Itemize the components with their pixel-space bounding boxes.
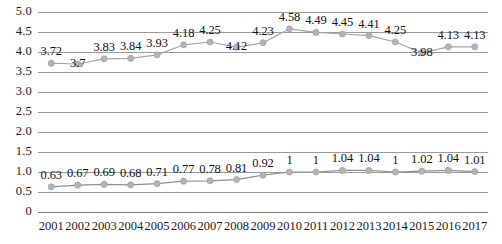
series-marker: [366, 33, 372, 39]
series-marker: [233, 177, 239, 183]
series-marker: [339, 167, 345, 173]
series-marker: [339, 31, 345, 37]
series-marker: [260, 172, 266, 178]
series-marker: [445, 44, 451, 50]
series-marker: [180, 178, 186, 184]
series-marker: [128, 182, 134, 188]
data-point-label: 4.12: [219, 39, 253, 54]
series-marker: [392, 169, 398, 175]
data-point-label: 1.01: [458, 153, 492, 168]
data-point-label: 4.25: [193, 23, 227, 38]
series-marker: [207, 39, 213, 45]
series-marker: [128, 55, 134, 61]
series-marker: [366, 167, 372, 173]
data-point-label: 3.7: [60, 56, 94, 71]
series-marker: [48, 60, 54, 66]
series-marker: [180, 42, 186, 48]
data-point-label: 4.25: [378, 23, 412, 38]
line-chart: 00.51.01.52.02.53.03.54.04.55.0 20012002…: [0, 0, 502, 244]
series-marker: [472, 44, 478, 50]
series-marker: [419, 168, 425, 174]
series-marker: [392, 39, 398, 45]
series-marker: [313, 169, 319, 175]
series-marker: [154, 181, 160, 187]
data-point-label: 4.13: [458, 28, 492, 43]
series-marker: [286, 26, 292, 32]
series-marker: [154, 52, 160, 58]
series-marker: [207, 178, 213, 184]
series-marker: [101, 56, 107, 62]
series-marker: [101, 181, 107, 187]
series-marker: [260, 40, 266, 46]
series-marker: [75, 182, 81, 188]
data-point-label: 4.23: [246, 24, 280, 39]
series-marker: [313, 29, 319, 35]
data-point-label: 3.98: [405, 45, 439, 60]
series-marker: [445, 167, 451, 173]
series-marker: [472, 169, 478, 175]
series-marker: [286, 169, 292, 175]
series-marker: [48, 184, 54, 190]
